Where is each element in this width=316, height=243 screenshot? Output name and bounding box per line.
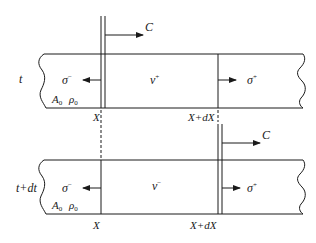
top-area-label: A0 [51, 93, 63, 107]
top-wave-speed-label: C [145, 20, 154, 34]
bottom-bar-panel: C σ− σ+ v− A0 ρ0 t+dt X X+dX [16, 124, 305, 231]
top-left-stress-label: σ− [62, 73, 72, 87]
top-bar-right-break-icon [298, 54, 306, 108]
top-section-left-label: X [92, 111, 101, 123]
bottom-wave-speed-label: C [262, 128, 271, 142]
top-bar-left-break-icon [39, 54, 46, 108]
bottom-section-right-label: X+dX [189, 219, 218, 231]
bottom-right-stress-label: σ+ [247, 181, 257, 195]
bottom-time-label: t+dt [16, 181, 37, 195]
bottom-bar-right-break-icon [298, 160, 306, 214]
bottom-density-label: ρ0 [68, 199, 78, 213]
top-velocity-label: v+ [150, 73, 159, 87]
top-section-right-label: X+dX [187, 111, 216, 123]
bottom-area-label: A0 [51, 199, 63, 213]
bottom-section-left-label: X [92, 219, 101, 231]
top-bar-panel: C σ− σ+ v+ A0 ρ0 t X X+dX [19, 16, 305, 123]
bottom-bar-left-break-icon [39, 160, 46, 214]
top-time-label: t [19, 72, 23, 86]
top-right-stress-label: σ+ [247, 73, 257, 87]
wave-diagram: C σ− σ+ v+ A0 ρ0 t X X+dX C [0, 0, 316, 243]
bottom-left-stress-label: σ− [62, 181, 72, 195]
bottom-velocity-label: v− [152, 179, 161, 193]
top-density-label: ρ0 [68, 93, 78, 107]
